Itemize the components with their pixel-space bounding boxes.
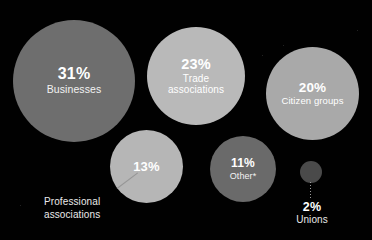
bubble-citizen-groups[interactable]: 20% Citizen groups	[266, 47, 359, 140]
bubble-trade-associations-label-line1: Trade	[183, 73, 209, 84]
bubble-trade-associations-label-line2: associations	[168, 84, 224, 95]
bubble-citizen-groups-percent: 20%	[299, 81, 327, 95]
noise-speck	[357, 30, 358, 31]
bubble-other[interactable]: 11% Other*	[210, 136, 276, 202]
bubble-other-percent: 11%	[231, 157, 255, 170]
leader-line-unions	[310, 182, 311, 199]
professional-associations-label-line1: Professional	[44, 196, 100, 209]
noise-speck	[20, 205, 21, 206]
bubble-unions-percent: 2%	[287, 200, 337, 214]
bubble-professional-associations-label: Professional associations	[44, 196, 100, 221]
bubble-businesses-label: Businesses	[47, 84, 102, 96]
bubble-professional-associations[interactable]: 13%	[110, 130, 183, 203]
bubble-unions-label: 2% Unions	[287, 200, 337, 226]
noise-speck	[262, 55, 263, 56]
bubble-trade-associations[interactable]: 23% Trade associations	[147, 27, 245, 125]
bubble-unions-name: Unions	[287, 214, 337, 226]
bubble-citizen-groups-label: Citizen groups	[281, 96, 343, 107]
noise-speck	[283, 45, 284, 46]
bubble-businesses[interactable]: 31% Businesses	[13, 20, 135, 142]
bubble-trade-associations-percent: 23%	[181, 57, 211, 72]
bubble-unions[interactable]	[300, 161, 322, 183]
bubble-businesses-percent: 31%	[58, 66, 91, 83]
bubble-chart: 31% Businesses 23% Trade associations 20…	[0, 0, 372, 240]
professional-associations-label-line2: associations	[44, 209, 100, 222]
bubble-other-label: Other*	[230, 171, 257, 181]
